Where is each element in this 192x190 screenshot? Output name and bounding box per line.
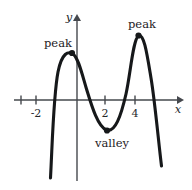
y-axis-label: y bbox=[65, 10, 73, 24]
figure-container: -2 2 4 x y peak peak valley bbox=[0, 0, 192, 190]
x-axis-label: x bbox=[175, 102, 182, 116]
x-tick-label-4: 4 bbox=[132, 107, 139, 120]
peak-marker-left bbox=[69, 50, 75, 56]
x-tick-label-minus2: -2 bbox=[31, 107, 42, 120]
y-axis-arrow-icon bbox=[73, 14, 81, 21]
annotation-valley: valley bbox=[94, 136, 130, 150]
x-tick-label-2: 2 bbox=[102, 107, 109, 120]
curve-figure: -2 2 4 x y peak peak valley bbox=[0, 0, 192, 190]
x-axis: -2 2 4 x bbox=[14, 96, 184, 121]
annotation-peak-right: peak bbox=[128, 17, 157, 31]
peak-marker-right bbox=[135, 32, 141, 38]
valley-marker bbox=[104, 127, 110, 133]
annotation-peak-left: peak bbox=[44, 36, 73, 50]
